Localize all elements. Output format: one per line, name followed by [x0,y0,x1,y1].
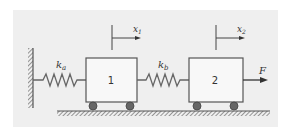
wheel-icon [126,102,134,110]
spring-ka-label: ka [56,59,66,72]
spring-ka [33,74,86,86]
wheel-icon [89,102,97,110]
spring-mass-diagram: ka 1 kb 2 F x1 x2 [0,0,288,138]
ground [57,111,270,116]
force-arrow [243,77,268,83]
fixed-wall [28,48,33,108]
mass-1-label: 1 [108,75,114,86]
mass-2-label: 2 [212,75,218,86]
displacement-x1-label: x1 [133,24,142,35]
wheel-icon [193,102,201,110]
displacement-x2-label: x2 [237,24,246,35]
wheel-icon [230,102,238,110]
spring-kb-label: kb [158,59,169,72]
force-label: F [258,65,267,76]
spring-kb [137,74,189,86]
